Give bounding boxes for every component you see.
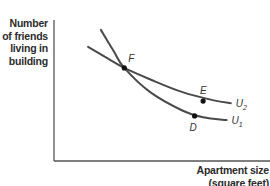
- point-d: [192, 113, 197, 118]
- point-e: [201, 98, 206, 103]
- indifference-curve-u2: [88, 47, 231, 103]
- indifference-curve-u1: [101, 30, 227, 120]
- point-label-e: E: [200, 85, 207, 96]
- chart-canvas: U2U1 FED: [0, 0, 270, 186]
- point-label-f: F: [128, 53, 135, 64]
- curve-label-u2: U2: [236, 98, 247, 111]
- point-f: [122, 65, 127, 70]
- curve-label-u1: U1: [232, 115, 243, 128]
- point-label-d: D: [190, 122, 197, 133]
